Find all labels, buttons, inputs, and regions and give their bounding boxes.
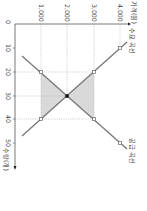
price-tick-1000: 1,000 xyxy=(38,4,45,22)
quantity-axis-label: 수량(개) xyxy=(2,148,10,171)
shaded-region-lower xyxy=(41,72,67,119)
supply-curve xyxy=(22,56,127,149)
quantity-tick-30: 30 xyxy=(5,92,12,100)
equilibrium-point xyxy=(65,94,68,97)
price-axis-arrow-icon xyxy=(128,23,131,26)
grid xyxy=(15,24,120,119)
supply-curve-label: 공급 곡선 xyxy=(128,138,136,164)
supply-demand-chart: 0 1,000 2,000 3,000 4,000 가격(원) 10 20 30… xyxy=(0,0,147,211)
quantity-tick-40: 40 xyxy=(5,115,12,123)
price-axis-label: 가격(원) xyxy=(130,1,138,24)
quantity-axis-arrow-icon xyxy=(14,166,17,170)
demand-curve xyxy=(22,42,127,136)
origin-label: 0 xyxy=(5,20,12,24)
price-tick-4000: 4,000 xyxy=(117,4,124,22)
demand-curve-label: 수요 곡선 xyxy=(128,28,136,54)
quantity-tick-50: 50 xyxy=(5,139,12,147)
price-tick-2000: 2,000 xyxy=(64,4,71,22)
quantity-tick-10: 10 xyxy=(5,44,12,52)
quantity-tick-20: 20 xyxy=(5,68,12,76)
price-tick-3000: 3,000 xyxy=(91,4,98,22)
shaded-region-upper xyxy=(67,72,94,119)
